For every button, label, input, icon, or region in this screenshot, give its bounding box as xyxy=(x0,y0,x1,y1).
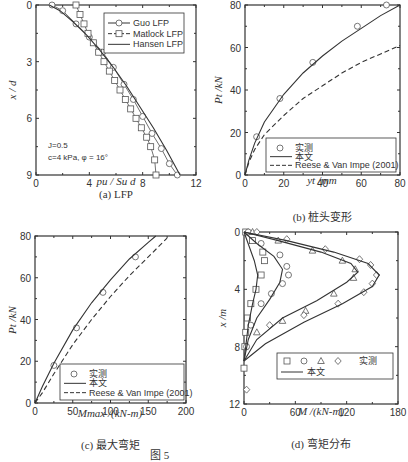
y-tick-label: 20 xyxy=(20,356,32,367)
y-tick-label: 12 xyxy=(229,399,241,410)
y-tick-label: 60 xyxy=(20,273,32,284)
y-axis-label: x /m xyxy=(216,309,228,329)
x-tick-label: 80 xyxy=(394,178,406,189)
x-tick-label: 12 xyxy=(190,178,202,189)
y-tick-label: 0 xyxy=(234,227,240,238)
svg-text:本文: 本文 xyxy=(307,366,325,377)
chart-a: 048120369pu / Su dx / d(a) LFPGuo LFPMat… xyxy=(6,0,202,201)
x-axis-label: Mmax /(kN-m) xyxy=(77,407,143,420)
x-tick-label: 180 xyxy=(390,407,407,418)
legend-entry: Reese & Van Impe (2001) xyxy=(89,388,192,398)
x-tick-label: 0 xyxy=(33,178,39,189)
x-axis-label: pu / Su d xyxy=(96,175,136,187)
y-tick-label: 6 xyxy=(26,113,32,124)
legend-entry: Hansen LFP xyxy=(133,39,183,49)
chart-b: 020406080020406080yt /mmPt /kN(b) 桩头变形实测… xyxy=(212,0,406,224)
x-axis-label: yt /mm xyxy=(306,174,337,186)
x-axis-label: M /(kN-m) xyxy=(297,405,344,418)
x-tick-label: 0 xyxy=(32,406,38,417)
y-tick-label: 3 xyxy=(26,57,32,68)
figure-caption: 图 5 xyxy=(150,449,170,461)
y-tick-label: 40 xyxy=(20,315,32,326)
x-tick-label: 60 xyxy=(356,178,368,189)
legend-entry: Guo LFP xyxy=(133,18,169,28)
y-tick-label: 8 xyxy=(234,342,240,353)
y-tick-label: 40 xyxy=(230,85,242,96)
y-axis-label: Pt /kN xyxy=(6,305,18,334)
annotation: c=4 kPa, φ = 16° xyxy=(48,153,108,162)
x-tick-label: 8 xyxy=(140,178,146,189)
x-tick-label: 0 xyxy=(241,407,247,418)
y-tick-label: 9 xyxy=(26,170,32,181)
subplot-caption: (a) LFP xyxy=(99,188,133,201)
y-tick-label: 20 xyxy=(230,128,242,139)
y-axis-label: x / d xyxy=(6,80,18,100)
chart-d: 06012018004812M /(kN-m)x /m(d) 弯矩分布实测本文 xyxy=(216,227,407,451)
annotation: J=0.5 xyxy=(48,141,68,150)
figure: 048120369pu / Su dx / d(a) LFPGuo LFPMat… xyxy=(0,0,408,462)
legend-entry: Reese & Van Impe (2001) xyxy=(295,160,398,170)
x-tick-label: 0 xyxy=(242,178,248,189)
legend-entry: Matlock LFP xyxy=(133,29,183,39)
svg-text:实测: 实测 xyxy=(359,355,377,366)
y-axis-label: Pt /kN xyxy=(212,75,224,104)
y-tick-label: 0 xyxy=(25,398,31,409)
y-tick-label: 80 xyxy=(230,0,242,11)
subplot-caption: (c) 最大弯矩 xyxy=(81,438,140,452)
x-tick-label: 200 xyxy=(178,406,195,417)
y-tick-label: 0 xyxy=(235,170,241,181)
y-tick-label: 4 xyxy=(234,284,240,295)
y-tick-label: 80 xyxy=(20,231,32,242)
y-tick-label: 60 xyxy=(230,43,242,54)
subplot-caption: (d) 弯矩分布 xyxy=(291,437,351,451)
x-tick-label: 150 xyxy=(140,406,157,417)
x-tick-label: 4 xyxy=(87,178,93,189)
subplot-caption: (b) 桩头变形 xyxy=(293,210,353,224)
y-tick-label: 0 xyxy=(26,0,32,11)
x-tick-label: 20 xyxy=(278,178,290,189)
chart-c: 050100150200020406080Mmax /(kN-m)Pt /kN(… xyxy=(6,231,195,452)
